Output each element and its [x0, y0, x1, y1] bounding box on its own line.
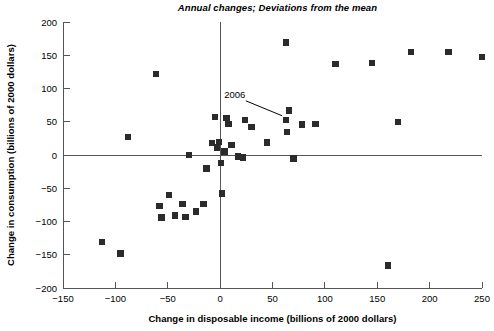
y-axis-tick-label: 50	[46, 116, 57, 127]
chart-canvas: 2006 −200−150−100−50050100150200−150−100…	[0, 0, 494, 331]
data-point-marker	[214, 144, 220, 150]
data-point-marker	[186, 152, 192, 158]
y-axis-tick-label: 200	[41, 17, 57, 28]
data-point-marker	[221, 148, 227, 154]
data-point-marker	[242, 117, 248, 123]
x-axis-tick-label: 250	[474, 293, 490, 304]
data-point-marker	[182, 214, 188, 220]
y-axis-tick-label: −200	[36, 283, 57, 294]
x-axis-tick-label: 100	[317, 293, 333, 304]
data-point-marker	[332, 61, 338, 67]
data-point-marker	[158, 214, 164, 220]
x-axis-tick-label: −100	[105, 293, 126, 304]
data-point-marker	[290, 155, 296, 161]
data-point-marker	[125, 134, 131, 140]
data-point-marker	[200, 201, 206, 207]
data-point-marker	[479, 54, 485, 60]
data-point-marker	[264, 139, 270, 145]
annotation-leader-line	[246, 101, 282, 116]
data-point-marker	[240, 154, 246, 160]
y-axis-title: Change in consumption (billions of 2000 …	[5, 44, 16, 266]
data-point-marker	[299, 121, 305, 127]
zero-lines-layer	[63, 22, 482, 288]
data-point-marker	[219, 190, 225, 196]
y-axis-tick-label: 150	[41, 50, 57, 61]
annotations-layer: 2006	[224, 89, 282, 116]
data-point-marker	[283, 117, 289, 123]
data-point-marker	[312, 121, 318, 127]
data-point-marker	[156, 203, 162, 209]
data-point-marker	[408, 49, 414, 55]
y-axis-tick-label: −150	[36, 249, 57, 260]
y-axis-tick-label: 100	[41, 83, 57, 94]
data-point-marker	[216, 139, 222, 145]
data-point-marker	[193, 208, 199, 214]
data-point-marker	[166, 192, 172, 198]
annotation-label: 2006	[224, 89, 245, 100]
data-point-marker	[223, 115, 229, 121]
data-point-marker	[445, 49, 451, 55]
y-axis-tick-label: −50	[41, 183, 57, 194]
x-axis-tick-label: 150	[369, 293, 385, 304]
data-point-marker	[172, 212, 178, 218]
x-axis-title: Change in disposable income (billions of…	[148, 313, 396, 324]
data-point-marker	[286, 107, 292, 113]
x-axis-tick-label: −50	[160, 293, 176, 304]
data-point-marker	[117, 250, 123, 256]
y-axis-tick-label: 0	[52, 150, 57, 161]
data-point-marker	[225, 121, 231, 127]
data-point-marker	[153, 71, 159, 77]
data-point-marker	[283, 39, 289, 45]
scatter-chart: 2006 −200−150−100−50050100150200−150−100…	[0, 0, 494, 331]
data-point-marker	[248, 124, 254, 130]
data-points-layer	[99, 39, 486, 268]
data-point-marker	[284, 129, 290, 135]
data-point-marker	[212, 114, 218, 120]
text-labels-layer: −200−150−100−50050100150200−150−100−5005…	[5, 2, 490, 324]
y-axis-tick-label: −100	[36, 216, 57, 227]
x-axis-tick-label: 200	[422, 293, 438, 304]
data-point-marker	[99, 239, 105, 245]
data-point-marker	[179, 201, 185, 207]
data-point-marker	[385, 262, 391, 268]
data-point-marker	[203, 165, 209, 171]
x-axis-tick-label: 50	[267, 293, 278, 304]
x-axis-tick-label: 0	[217, 293, 222, 304]
chart-title: Annual changes; Deviations from the mean	[177, 2, 377, 13]
data-point-marker	[218, 160, 224, 166]
data-point-marker	[228, 142, 234, 148]
data-point-marker	[395, 119, 401, 125]
x-axis-tick-label: −150	[52, 293, 73, 304]
data-point-marker	[369, 60, 375, 66]
